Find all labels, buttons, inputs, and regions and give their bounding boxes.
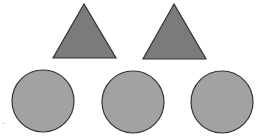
circle-row	[12, 70, 253, 133]
circle-shape	[12, 70, 74, 132]
triangle-row	[53, 4, 206, 59]
shapes-diagram	[0, 0, 257, 139]
triangle-shape	[53, 4, 116, 58]
clipped-edge-mark: .	[2, 116, 5, 126]
triangle-shape	[143, 4, 206, 59]
circle-shape	[191, 71, 253, 133]
circle-shape	[102, 71, 164, 133]
